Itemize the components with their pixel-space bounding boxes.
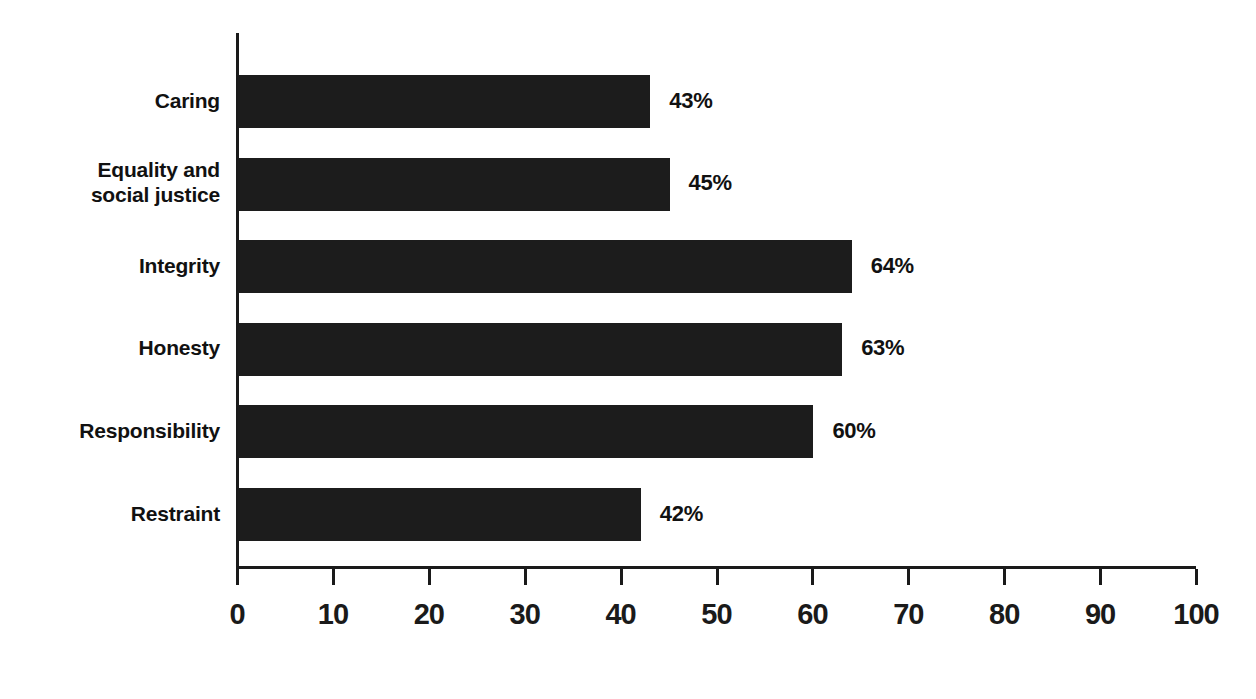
bar	[238, 405, 813, 458]
x-axis-tick-mark	[332, 569, 335, 585]
x-axis-tick-mark	[1099, 569, 1102, 585]
x-axis-tick-mark	[236, 569, 239, 585]
bar-category-label-line: social justice	[0, 183, 220, 208]
bar-category-label: Equality andsocial justice	[0, 158, 220, 208]
x-axis-tick-mark	[428, 569, 431, 585]
bar-category-label: Caring	[0, 89, 220, 114]
bar-value-label: 42%	[660, 501, 703, 527]
bar	[238, 158, 670, 211]
x-axis-tick-label: 30	[510, 598, 540, 631]
bar-category-label-line: Honesty	[0, 336, 220, 361]
bar	[238, 323, 842, 376]
x-axis-tick-mark	[524, 569, 527, 585]
bar-value-label: 64%	[871, 253, 914, 279]
x-axis-tick-label: 20	[414, 598, 444, 631]
bar-category-label: Integrity	[0, 254, 220, 279]
bar-category-label: Responsibility	[0, 419, 220, 444]
bar-category-label: Honesty	[0, 336, 220, 361]
x-axis-tick-label: 90	[1085, 598, 1115, 631]
x-axis-tick-label: 60	[797, 598, 827, 631]
bar-value-label: 63%	[861, 335, 904, 361]
x-axis-tick-label: 80	[989, 598, 1019, 631]
chart-canvas: 0102030405060708090100 Caring43%Equality…	[0, 0, 1256, 699]
bar-value-label: 60%	[832, 418, 875, 444]
x-axis-tick-label: 10	[318, 598, 348, 631]
x-axis-tick-mark	[1003, 569, 1006, 585]
bar	[238, 240, 852, 293]
bar-value-label: 45%	[689, 170, 732, 196]
bar-category-label: Restraint	[0, 502, 220, 527]
bar-category-label-line: Restraint	[0, 502, 220, 527]
x-axis-tick-label: 70	[893, 598, 923, 631]
bar-category-label-line: Caring	[0, 89, 220, 114]
x-axis-tick-label: 100	[1173, 598, 1218, 631]
x-axis-tick-mark	[811, 569, 814, 585]
bar	[238, 488, 641, 541]
bar-category-label-line: Equality and	[0, 158, 220, 183]
x-axis-tick-label: 0	[229, 598, 244, 631]
bar-category-label-line: Integrity	[0, 254, 220, 279]
x-axis-tick-label: 40	[605, 598, 635, 631]
x-axis-tick-mark	[1195, 569, 1198, 585]
x-axis-tick-mark	[716, 569, 719, 585]
x-axis-tick-label: 50	[701, 598, 731, 631]
bar-value-label: 43%	[669, 88, 712, 114]
bar-chart-plot-area: 0102030405060708090100 Caring43%Equality…	[0, 0, 1256, 699]
x-axis-tick-mark	[907, 569, 910, 585]
x-axis-tick-mark	[620, 569, 623, 585]
bar	[238, 75, 650, 128]
bar-category-label-line: Responsibility	[0, 419, 220, 444]
